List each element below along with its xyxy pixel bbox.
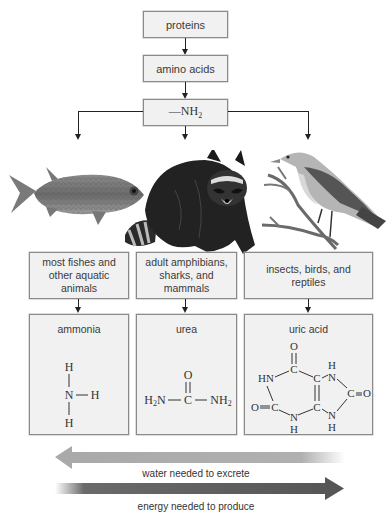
svg-text:C: C	[184, 393, 192, 407]
svg-text:O: O	[363, 387, 371, 399]
group-box-aquatic: most fishes and other aquatic animals	[29, 252, 129, 299]
group-label-line: insects, birds, and	[266, 263, 351, 276]
group-label-line: reptiles	[266, 276, 351, 289]
group-label-line: adult amphibians,	[145, 256, 227, 269]
svg-text:H: H	[65, 360, 74, 374]
bird-illustration-icon	[258, 145, 390, 255]
branch-drop-right	[308, 111, 309, 135]
group-label-line: most fishes and	[42, 256, 116, 269]
svg-text:H: H	[328, 421, 336, 433]
group-label-line: sharks, and	[145, 269, 227, 282]
svg-text:C: C	[290, 363, 297, 375]
svg-text:O: O	[251, 401, 259, 413]
svg-text:C: C	[313, 372, 320, 384]
svg-text:H2N: H2N	[144, 393, 166, 408]
compound-box-urea: urea O C H2N NH2	[136, 314, 237, 435]
arrow-down-icon	[75, 307, 81, 313]
branch-line-right	[228, 111, 308, 112]
svg-text:N: N	[290, 411, 298, 423]
svg-text:N: N	[328, 371, 336, 383]
svg-text:C: C	[313, 401, 320, 413]
uric-acid-structure: O C HN C H N C O O C N H C N H	[245, 315, 374, 436]
group-label-line: animals	[42, 282, 116, 295]
svg-text:C: C	[271, 401, 278, 413]
svg-text:H: H	[65, 416, 74, 430]
svg-text:O: O	[290, 340, 298, 352]
ammonia-structure: H N H H	[30, 315, 130, 436]
arrow-down-icon	[305, 307, 311, 313]
urea-structure: O C H2N NH2	[137, 315, 238, 436]
group-label-line: mammals	[145, 282, 227, 295]
compound-box-ammonia: ammonia H N H H	[29, 314, 129, 435]
compound-box-uric-acid: uric acid O C HN C H N C O O C N H C N H	[244, 314, 373, 435]
group-box-birds: insects, birds, and reptiles	[244, 252, 373, 299]
svg-text:H: H	[290, 423, 298, 435]
group-label-line: other aquatic	[42, 269, 116, 282]
proteins-label: proteins	[166, 19, 205, 31]
amino-acids-box: amino acids	[143, 55, 228, 82]
svg-text:C: C	[347, 387, 354, 399]
svg-text:N: N	[328, 409, 336, 421]
branch-line-left	[78, 111, 143, 112]
svg-text:NH2: NH2	[210, 393, 231, 408]
arrow-down-icon	[75, 134, 81, 140]
energy-gradient-label: energy needed to produce	[0, 501, 392, 512]
energy-gradient-arrow-icon	[50, 476, 350, 502]
arrow-down-icon	[182, 134, 188, 140]
svg-text:HN: HN	[258, 372, 274, 384]
svg-text:O: O	[184, 368, 193, 382]
svg-text:H: H	[91, 388, 100, 402]
svg-text:N: N	[65, 388, 74, 402]
group-box-mammals: adult amphibians, sharks, and mammals	[136, 252, 237, 299]
branch-drop-left	[78, 111, 79, 135]
raccoon-illustration-icon	[115, 150, 265, 260]
arrow-down-icon	[305, 134, 311, 140]
proteins-box: proteins	[143, 11, 228, 38]
amine-group-label: —NH2	[169, 104, 202, 120]
amino-acids-label: amino acids	[156, 63, 215, 75]
arrow-down-icon	[182, 307, 188, 313]
amine-group-box: —NH2	[143, 99, 228, 126]
svg-text:H: H	[328, 359, 336, 371]
